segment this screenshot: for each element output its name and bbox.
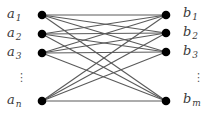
graph-edges-and-nodes — [0, 0, 207, 117]
label-a1-sub: 1 — [16, 13, 22, 23]
label-a2: a2 — [7, 26, 22, 42]
label-b3: b3 — [183, 44, 198, 60]
label-a2-sub: 2 — [16, 32, 22, 42]
node-bm — [162, 97, 171, 106]
label-b2-sub: 2 — [192, 31, 198, 41]
node-a2 — [38, 30, 47, 39]
bipartite-graph-diagram: a1 a2 a3 ⋮ an b1 b2 b3 ⋮ bm — [0, 0, 207, 117]
label-a3-name: a — [7, 44, 15, 59]
label-b3-sub: 3 — [192, 50, 198, 60]
label-a1-name: a — [7, 6, 15, 21]
label-b2: b2 — [183, 25, 198, 41]
node-b2 — [162, 29, 171, 38]
label-an: an — [7, 93, 22, 109]
label-an-sub: n — [16, 99, 22, 109]
label-b2-name: b — [183, 24, 191, 39]
label-a2-name: a — [7, 25, 15, 40]
label-bm: bm — [183, 92, 201, 108]
edge-a3-b3 — [42, 52, 166, 53]
label-bm-sub: m — [192, 98, 201, 108]
label-b1-name: b — [183, 5, 191, 20]
right-ellipsis: ⋮ — [193, 76, 199, 80]
label-b1: b1 — [183, 6, 198, 22]
node-b1 — [162, 11, 171, 20]
node-a1 — [38, 11, 47, 20]
label-bm-name: b — [183, 91, 191, 106]
label-a1: a1 — [7, 7, 22, 23]
label-b3-name: b — [183, 43, 191, 58]
label-a3-sub: 3 — [16, 51, 22, 61]
label-a3: a3 — [7, 45, 22, 61]
node-a3 — [38, 49, 47, 58]
label-b1-sub: 1 — [192, 12, 198, 22]
left-ellipsis: ⋮ — [16, 76, 22, 80]
node-an — [38, 97, 47, 106]
node-b3 — [162, 48, 171, 57]
label-an-name: a — [7, 92, 15, 107]
